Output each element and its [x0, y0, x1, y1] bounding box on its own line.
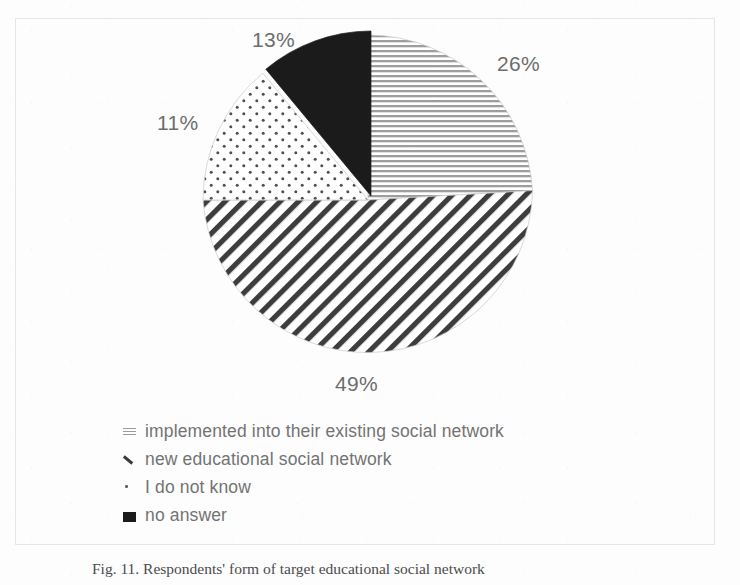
legend-item-do-not-know: I do not know: [123, 474, 593, 501]
solid-black-swatch-icon: [123, 512, 136, 522]
dot-swatch-icon: [123, 482, 136, 493]
pie-slice-new-network: [203, 191, 533, 353]
legend-label-do-not-know: I do not know: [145, 479, 251, 497]
pie-chart: 26% 49% 11% 13%: [0, 0, 740, 400]
legend-label-no-answer: no answer: [145, 507, 227, 525]
horizontal-lines-swatch-icon: [123, 428, 136, 437]
legend-label-new-network: new educational social network: [145, 451, 392, 469]
scanned-figure-page: 26% 49% 11% 13% implemented into their e…: [0, 0, 740, 585]
pie-value-label-new-network: 49%: [335, 372, 378, 396]
diagonal-hatch-swatch-icon: [123, 454, 136, 465]
pie-value-label-implemented-existing: 26%: [497, 52, 540, 76]
legend-label-implemented-existing: implemented into their existing social n…: [145, 423, 504, 441]
pie-value-label-do-not-know: 11%: [157, 111, 198, 135]
pie-chart-svg: [0, 0, 740, 400]
legend-item-implemented-existing: implemented into their existing social n…: [123, 418, 593, 445]
figure-caption: Fig. 11. Respondents' form of target edu…: [92, 560, 652, 578]
legend-item-new-network: new educational social network: [123, 446, 593, 473]
chart-legend: implemented into their existing social n…: [123, 418, 593, 530]
legend-item-no-answer: no answer: [123, 502, 593, 529]
pie-value-label-no-answer: 13%: [252, 28, 295, 52]
